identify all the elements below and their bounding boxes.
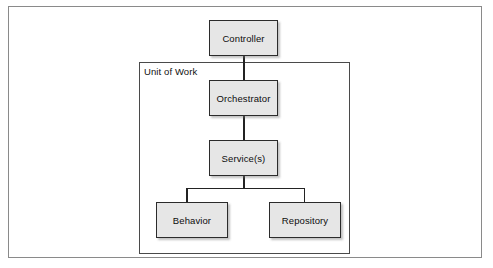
connector-services-stem: [243, 175, 245, 188]
node-controller[interactable]: Controller: [209, 20, 278, 56]
node-behavior-label: Behavior: [173, 215, 211, 226]
node-repository[interactable]: Repository: [269, 202, 341, 238]
node-orchestrator-label: Orchestrator: [217, 93, 271, 104]
node-orchestrator[interactable]: Orchestrator: [209, 80, 278, 116]
connector-branch-bar: [186, 188, 305, 190]
node-services-label: Service(s): [222, 153, 266, 164]
diagram-figure: Unit of Work Controller Orchestrator Ser…: [0, 0, 493, 268]
node-services[interactable]: Service(s): [209, 140, 278, 176]
connector-branch-repository: [304, 188, 306, 203]
connector-branch-behavior: [186, 188, 188, 203]
node-behavior[interactable]: Behavior: [156, 202, 228, 238]
node-repository-label: Repository: [282, 215, 328, 226]
unit-of-work-label: Unit of Work: [143, 66, 198, 77]
node-controller-label: Controller: [222, 33, 264, 44]
